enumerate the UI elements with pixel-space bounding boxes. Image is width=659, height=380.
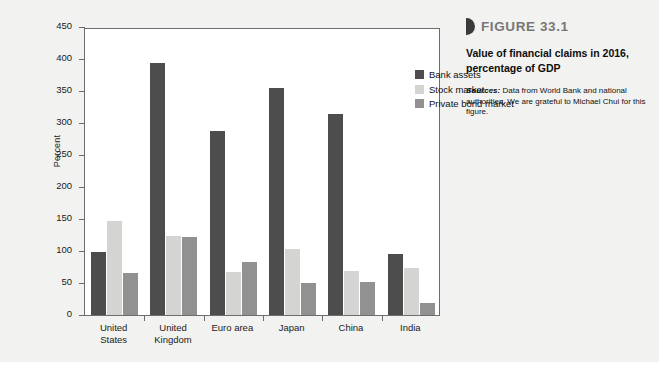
source-label: Sources: (466, 86, 500, 95)
bars-layer (85, 29, 439, 315)
plot-area: 050100150200250300350400450 Bank assetsS… (84, 28, 440, 316)
bar (301, 283, 316, 315)
bar (123, 273, 138, 315)
bar (182, 237, 197, 315)
bar-group (85, 29, 144, 315)
y-axis-tick-label: 50 (61, 276, 72, 287)
y-axis-tick-label: 300 (56, 116, 72, 127)
x-axis-tick-mark (204, 315, 205, 321)
y-axis-tick-label: 250 (56, 148, 72, 159)
bar (404, 268, 419, 315)
x-axis-tick-mark (382, 315, 383, 321)
bar-group (263, 29, 322, 315)
figure-number: FIGURE 33.1 (481, 19, 569, 34)
bar-chart: Percent 050100150200250300350400450 Bank… (0, 0, 460, 362)
y-axis-tick-label: 350 (56, 84, 72, 95)
figure-marker-icon (466, 18, 475, 35)
x-axis-tick-mark (144, 315, 145, 321)
bar (388, 254, 403, 315)
figure-caption-title: Value of financial claims in 2016, perce… (466, 46, 651, 75)
legend-swatch (415, 70, 424, 79)
x-axis-label: India (370, 322, 450, 334)
bar (285, 249, 300, 315)
legend-swatch (415, 99, 424, 108)
bar (344, 271, 359, 315)
y-axis-tick-label: 0 (67, 308, 72, 319)
y-axis-tick-mark (79, 27, 85, 28)
x-axis-tick-mark (322, 315, 323, 321)
bar (107, 221, 122, 315)
bar (269, 88, 284, 315)
figure-source-note: Sources: Data from World Bank and nation… (466, 86, 651, 118)
bar-group (144, 29, 203, 315)
x-axis-label-line: India (370, 322, 450, 334)
y-axis-tick-label: 150 (56, 212, 72, 223)
bar (91, 252, 106, 315)
bar (420, 303, 435, 315)
y-axis-tick-label: 450 (56, 20, 72, 31)
bar (150, 63, 165, 315)
y-axis-tick-mark (79, 315, 85, 316)
bar (328, 114, 343, 315)
bar-group (204, 29, 263, 315)
legend-swatch (415, 85, 424, 94)
figure-heading: FIGURE 33.1 (466, 18, 651, 35)
y-axis-tick-label: 100 (56, 244, 72, 255)
bar (242, 262, 257, 315)
bar-group (322, 29, 381, 315)
x-axis-label-line: Kingdom (133, 334, 213, 346)
y-axis-tick-label: 400 (56, 52, 72, 63)
x-axis-tick-mark (263, 315, 264, 321)
figure-caption-panel: FIGURE 33.1 Value of financial claims in… (466, 18, 651, 118)
bar (166, 236, 181, 315)
bar (210, 131, 225, 315)
bar (360, 282, 375, 315)
y-axis-tick-label: 200 (56, 180, 72, 191)
figure-panel: Percent 050100150200250300350400450 Bank… (0, 0, 659, 362)
bar (226, 272, 241, 315)
